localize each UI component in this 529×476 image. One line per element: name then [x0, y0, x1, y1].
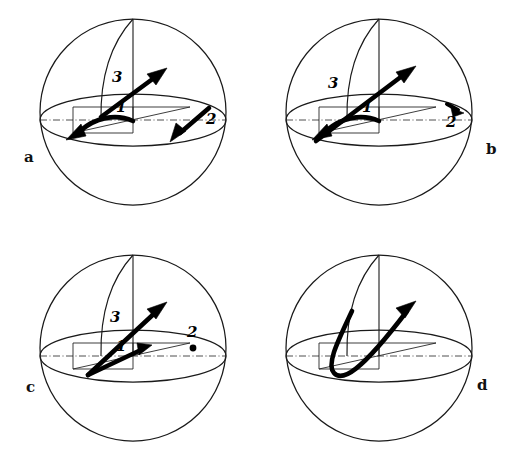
meridian-arc [347, 255, 379, 356]
vector-1-label: 1 [116, 98, 126, 116]
hook-vector-shaft [331, 311, 407, 376]
vector-3-label: 3 [110, 308, 120, 326]
panel-d-drawing [264, 238, 529, 476]
panel-label-d: d [477, 378, 488, 393]
vector-3-shaft [101, 75, 158, 117]
vector-1-label: 1 [362, 98, 372, 116]
hook-vector-head [396, 301, 416, 318]
panel-a: 3 1 2 a [0, 0, 265, 238]
panel-d: d [264, 238, 529, 476]
marker-2-dot [190, 345, 197, 352]
panel-a-drawing: 3 1 2 [0, 0, 265, 238]
panel-label-b: b [486, 142, 497, 157]
vector-2-label: 2 [445, 113, 456, 131]
panel-c-drawing: 3 1 2 [0, 238, 265, 476]
vector-2-label: 2 [205, 110, 216, 128]
vector-2-shaft [180, 108, 209, 133]
vector-2-head [170, 123, 186, 142]
marker-2-label: 2 [186, 323, 197, 341]
panel-label-c: c [26, 380, 35, 395]
vector-3-label: 3 [328, 74, 338, 92]
panel-b: 3 1 2 b [264, 0, 529, 238]
figure-root: 3 1 2 a 3 [0, 0, 529, 476]
vector-1-label: 1 [116, 337, 126, 355]
vector-3-label: 3 [112, 68, 122, 86]
panel-b-drawing: 3 1 2 [264, 0, 529, 238]
panel-label-a: a [24, 150, 34, 165]
panel-c: 3 1 2 c [0, 238, 265, 476]
vector-1-shaft [80, 117, 133, 131]
